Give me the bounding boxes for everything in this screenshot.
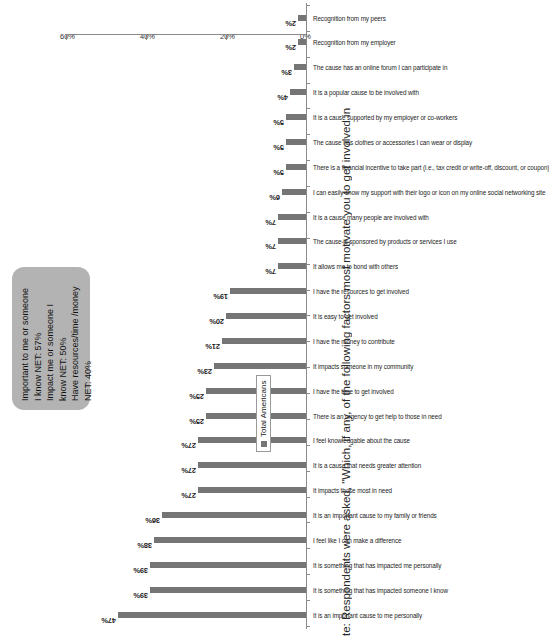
category-label-slot: It is a popular cause to be involved wit… xyxy=(312,80,366,105)
axis-tick xyxy=(306,160,310,161)
category-axis-ticks xyxy=(306,3,311,629)
category-label-slot: It is a cause supported by my employer o… xyxy=(312,105,366,130)
category-label-slot: It allows me to bond with others xyxy=(312,254,366,279)
axis-tick xyxy=(306,238,310,239)
axis-tick xyxy=(306,5,310,6)
bar xyxy=(294,64,306,70)
bar-value-label: 27% xyxy=(182,466,196,475)
bar-item: 27% xyxy=(66,453,306,478)
bar-item: 19% xyxy=(66,279,306,304)
category-label-slot: I have the resources to get involved xyxy=(312,279,366,304)
axis-tick xyxy=(306,600,310,601)
bar-item: 39% xyxy=(66,577,306,602)
category-label-slot: It is a cause many people are involved w… xyxy=(312,204,366,229)
axis-tick xyxy=(306,574,310,575)
category-label: The cause has clothes or accessories I c… xyxy=(313,138,472,145)
bar-value-label: 20% xyxy=(210,317,224,326)
category-label: I have the money to contribute xyxy=(313,337,395,344)
category-label-slot: I feel like I can make a difference xyxy=(312,528,366,553)
category-label-slot: Recognition from my employer xyxy=(312,30,366,55)
category-label: I feel knowledgable about the cause xyxy=(313,437,410,444)
bar xyxy=(290,89,306,95)
bar-item: 3% xyxy=(66,55,306,80)
bar-value-label: 2% xyxy=(286,19,296,28)
category-label: I have the resources to get involved xyxy=(313,288,409,295)
bar-value-label: 3% xyxy=(282,68,292,77)
category-label: It is a cause that needs greater attenti… xyxy=(313,462,421,469)
callout-line-1: Important to me or someone xyxy=(19,276,32,401)
category-label: It is something that has impacted someon… xyxy=(313,586,448,593)
axis-tick xyxy=(306,316,310,317)
bar xyxy=(150,562,306,568)
category-label: It allows me to bond with others xyxy=(313,263,398,270)
category-label-slot: It impacts someone in my community xyxy=(312,353,366,378)
bar xyxy=(230,288,306,294)
bar-value-label: 39% xyxy=(134,566,148,575)
category-label-slot: The cause has clothes or accessories I c… xyxy=(312,130,366,155)
axis-tick xyxy=(306,134,310,135)
category-axis-labels: It is an important cause to me personall… xyxy=(312,3,366,629)
callout-line-2: I know NET: 57% xyxy=(32,276,45,401)
bar-item: 2% xyxy=(66,5,306,30)
category-label-slot: I feel knowledgable about the cause xyxy=(312,428,366,453)
category-label: It is something that has impacted me per… xyxy=(313,561,441,568)
callout-line-4: know NET: 50% xyxy=(57,276,70,401)
bar-value-label: 2% xyxy=(286,43,296,52)
category-label: There is an urgency to get help to those… xyxy=(313,412,442,419)
bar xyxy=(198,437,306,443)
category-label: Recognition from my employer xyxy=(313,39,396,46)
bar-item: 38% xyxy=(66,528,306,553)
bar xyxy=(298,39,306,45)
category-label-slot: I can easily show my support with their … xyxy=(312,179,366,204)
category-label-slot: It is something that has impacted someon… xyxy=(312,577,366,602)
category-label: It is a popular cause to be involved wit… xyxy=(313,89,419,96)
category-label-slot: There is an urgency to get help to those… xyxy=(312,403,366,428)
bar-item: 7% xyxy=(66,254,306,279)
axis-tick xyxy=(306,393,310,394)
bar-value-label: 39% xyxy=(134,591,148,600)
category-label-slot: It impacts those most in need xyxy=(312,478,366,503)
category-label: It is an important cause to my family or… xyxy=(313,512,437,519)
category-label-slot: The cause has an online forum I can part… xyxy=(312,55,366,80)
axis-tick xyxy=(306,497,310,498)
axis-tick xyxy=(306,367,310,368)
category-label-slot: It is a cause that needs greater attenti… xyxy=(312,453,366,478)
bar-item: 7% xyxy=(66,204,306,229)
axis-tick xyxy=(306,264,310,265)
axis-tick xyxy=(306,626,310,627)
bar-value-label: 21% xyxy=(206,342,220,351)
axis-tick xyxy=(306,445,310,446)
category-label-slot: I have the time to get involved xyxy=(312,378,366,403)
axis-tick xyxy=(306,419,310,420)
category-label: It impacts someone in my community xyxy=(313,362,413,369)
bar-value-label: 6% xyxy=(270,193,280,202)
category-label: It is a cause supported by my employer o… xyxy=(313,114,457,121)
category-label-slot: It is something that has impacted me per… xyxy=(312,552,366,577)
bar-value-label: 38% xyxy=(138,541,152,550)
bar-item: 5% xyxy=(66,105,306,130)
bar-value-label: 47% xyxy=(102,616,116,625)
category-label-slot: The cause is sponsored by products or se… xyxy=(312,229,366,254)
bar-value-label: 27% xyxy=(182,441,196,450)
category-label: It impacts those most in need xyxy=(313,487,392,494)
bar xyxy=(226,313,306,319)
bar-item: 27% xyxy=(66,478,306,503)
bar-item: 36% xyxy=(66,503,306,528)
bar-item: 2% xyxy=(66,30,306,55)
axis-tick xyxy=(306,212,310,213)
net-summary-callout: Important to me or someone I know NET: 5… xyxy=(12,267,90,410)
bar-item: 20% xyxy=(66,304,306,329)
axis-tick xyxy=(306,341,310,342)
bar-value-label: 23% xyxy=(198,367,212,376)
category-label-slot: It is an important cause to my family or… xyxy=(312,503,366,528)
category-label: I have the time to get involved xyxy=(313,387,394,394)
bar xyxy=(282,189,306,195)
bar xyxy=(286,114,306,120)
axis-tick xyxy=(306,290,310,291)
bar xyxy=(286,139,306,145)
bar-value-label: 7% xyxy=(266,218,276,227)
bar-item: 4% xyxy=(66,80,306,105)
category-label-slot: There is a financial incentive to take p… xyxy=(312,154,366,179)
